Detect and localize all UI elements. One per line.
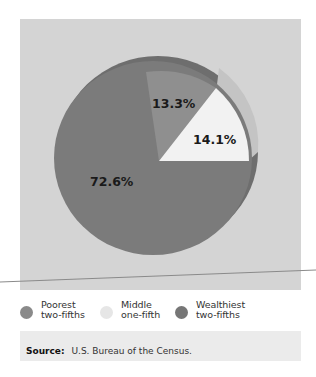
- legend-swatch-middle: [100, 306, 113, 319]
- label-poorest: 13.3%: [152, 96, 196, 111]
- legend-label-line2: two-fifths: [41, 310, 85, 320]
- legend-swatch-wealthiest: [175, 306, 188, 319]
- legend-item-middle: Middle one-fifth: [100, 300, 160, 320]
- legend-label-line2: two-fifths: [196, 310, 245, 320]
- legend: Poorest two-fifths Middle one-fifth Weal…: [20, 300, 310, 330]
- source-label: Source:: [26, 346, 65, 356]
- legend-item-wealthiest: Wealthiest two-fifths: [175, 300, 245, 320]
- source-text: U.S. Bureau of the Census.: [71, 346, 192, 356]
- legend-label-line2: one-fifth: [121, 310, 160, 320]
- pie-chart: 13.3% 14.1% 72.6%: [0, 0, 316, 300]
- source-bar: Source: U.S. Bureau of the Census.: [20, 331, 301, 361]
- divider-line: [0, 270, 316, 282]
- legend-swatch-poorest: [20, 306, 33, 319]
- label-middle: 14.1%: [193, 132, 237, 147]
- label-wealthiest: 72.6%: [90, 174, 134, 189]
- legend-item-poorest: Poorest two-fifths: [20, 300, 85, 320]
- source-note: Source: U.S. Bureau of the Census.: [26, 346, 192, 356]
